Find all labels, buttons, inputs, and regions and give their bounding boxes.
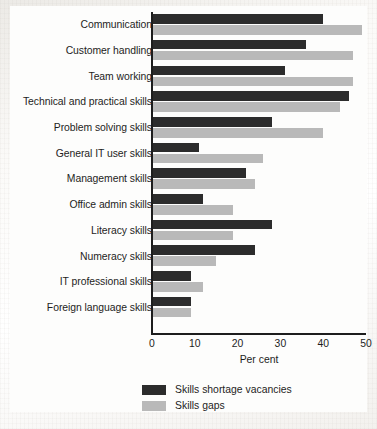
- bar-group: Literacy skills: [0, 218, 377, 244]
- bar-shortage-vacancies: [152, 220, 272, 230]
- bar-pair: [152, 38, 377, 64]
- bar-pair: [152, 89, 377, 115]
- category-label: Foreign language skills: [2, 302, 152, 313]
- bar-skills-gaps: [152, 179, 255, 189]
- chart-legend: Skills shortage vacanciesSkills gaps: [142, 384, 292, 416]
- legend-swatch-icon: [142, 401, 166, 411]
- bar-group: Foreign language skills: [0, 295, 377, 321]
- bar-shortage-vacancies: [152, 91, 349, 101]
- category-label: Customer handling: [2, 45, 152, 56]
- bar-skills-gaps: [152, 205, 233, 215]
- chart-container: CommunicationCustomer handlingTeam worki…: [0, 0, 377, 429]
- bar-shortage-vacancies: [152, 40, 306, 50]
- bar-pair: [152, 140, 377, 166]
- bar-skills-gaps: [152, 128, 323, 138]
- bar-skills-gaps: [152, 282, 203, 292]
- x-tick-label: 20: [232, 338, 244, 349]
- bar-pair: [152, 192, 377, 218]
- legend-swatch-icon: [142, 385, 166, 395]
- x-axis-line: [151, 333, 366, 335]
- bar-group: Communication: [0, 12, 377, 38]
- x-tick-label: 0: [149, 338, 155, 349]
- x-tick-label: 40: [317, 338, 329, 349]
- bar-group: IT professional skills: [0, 269, 377, 295]
- bar-shortage-vacancies: [152, 194, 203, 204]
- bar-rows: CommunicationCustomer handlingTeam worki…: [0, 12, 377, 320]
- bar-shortage-vacancies: [152, 143, 199, 153]
- bar-skills-gaps: [152, 77, 353, 87]
- bar-pair: [152, 115, 377, 141]
- x-axis-ticks: 01020304050: [0, 338, 377, 354]
- bar-shortage-vacancies: [152, 168, 246, 178]
- bar-group: Technical and practical skills: [0, 89, 377, 115]
- bar-skills-gaps: [152, 308, 191, 318]
- bar-skills-gaps: [152, 231, 233, 241]
- x-tick-label: 30: [275, 338, 287, 349]
- bar-pair: [152, 63, 377, 89]
- bar-shortage-vacancies: [152, 297, 191, 307]
- legend-item[interactable]: Skills shortage vacancies: [142, 384, 292, 395]
- x-tick-label: 10: [189, 338, 201, 349]
- bar-skills-gaps: [152, 25, 362, 35]
- bar-pair: [152, 295, 377, 321]
- legend-item[interactable]: Skills gaps: [142, 400, 292, 411]
- bar-group: Office admin skills: [0, 192, 377, 218]
- x-tick-label: 50: [360, 338, 372, 349]
- category-label: Problem solving skills: [2, 122, 152, 133]
- bar-skills-gaps: [152, 51, 353, 61]
- bar-shortage-vacancies: [152, 117, 272, 127]
- category-label: Team working: [2, 71, 152, 82]
- x-axis-title: Per cent: [152, 354, 366, 365]
- bar-skills-gaps: [152, 102, 340, 112]
- bar-pair: [152, 269, 377, 295]
- bar-group: General IT user skills: [0, 140, 377, 166]
- bar-group: Numeracy skills: [0, 243, 377, 269]
- bar-pair: [152, 12, 377, 38]
- y-axis-line: [151, 12, 153, 334]
- category-label: Literacy skills: [2, 225, 152, 236]
- bar-shortage-vacancies: [152, 245, 255, 255]
- bar-group: Customer handling: [0, 38, 377, 64]
- bar-skills-gaps: [152, 154, 263, 164]
- bar-group: Management skills: [0, 166, 377, 192]
- bar-shortage-vacancies: [152, 271, 191, 281]
- category-label: Management skills: [2, 173, 152, 184]
- category-label: General IT user skills: [2, 148, 152, 159]
- legend-label: Skills shortage vacancies: [175, 384, 292, 395]
- bar-group: Team working: [0, 63, 377, 89]
- bar-group: Problem solving skills: [0, 115, 377, 141]
- bar-pair: [152, 243, 377, 269]
- bar-shortage-vacancies: [152, 14, 323, 24]
- category-label: Technical and practical skills: [2, 96, 152, 107]
- bar-shortage-vacancies: [152, 66, 285, 76]
- bar-skills-gaps: [152, 256, 216, 266]
- bar-pair: [152, 218, 377, 244]
- bar-pair: [152, 166, 377, 192]
- legend-label: Skills gaps: [175, 400, 225, 411]
- category-label: Office admin skills: [2, 199, 152, 210]
- category-label: Numeracy skills: [2, 251, 152, 262]
- category-label: Communication: [2, 19, 152, 30]
- category-label: IT professional skills: [2, 276, 152, 287]
